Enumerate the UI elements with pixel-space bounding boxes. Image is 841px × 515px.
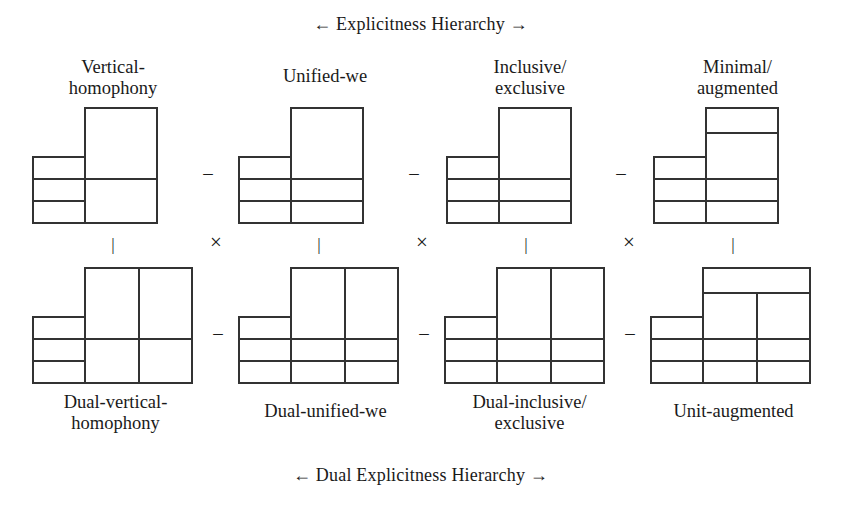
shape-vertical-homophony-svg [33,108,158,224]
caption-minimal-augmented: Minimal/ augmented [650,57,825,99]
operator-minus-top-2: – [402,163,426,182]
caption-unit-augmented: Unit-augmented [641,401,826,422]
explicitness-hierarchy-header: ← Explicitness Hierarchy → [0,14,841,35]
shape-unified-we [239,108,364,224]
shape-dual-vertical-homophony-svg [33,268,193,384]
operator-minus-top-3: – [609,163,633,182]
column-tick-4: | [721,236,745,253]
caption-vertical-homophony: Vertical- homophony [28,57,198,99]
shape-unit-augmented-svg [651,268,811,384]
column-tick-3: | [514,236,538,253]
caption-inclusive-exclusive: Inclusive/ exclusive [445,57,615,99]
operator-minus-bottom-2: – [412,323,436,342]
column-tick-1: | [101,236,125,253]
caption-unified-we: Unified-we [240,66,410,87]
operator-minus-top-1: – [196,163,220,182]
shape-dual-unified-we [239,268,399,384]
shape-minimal-augmented-svg [654,108,779,224]
shape-dual-vertical-homophony [33,268,193,384]
caption-dual-vertical-homophony: Dual-vertical- homophony [23,392,208,434]
caption-dual-inclusive-exclusive: Dual-inclusive/ exclusive [437,392,622,434]
shape-inclusive-exclusive [447,108,572,224]
caption-dual-unified-we: Dual-unified-we [233,401,418,422]
operator-times-3: × [616,232,642,253]
operator-minus-bottom-3: – [618,323,642,342]
shape-vertical-homophony [33,108,158,224]
operator-times-2: × [409,232,435,253]
column-tick-2: | [307,236,331,253]
figure-canvas: ← Explicitness Hierarchy → Vertical- hom… [0,0,841,515]
dual-explicitness-hierarchy-header: ← Dual Explicitness Hierarchy → [0,465,841,486]
shape-minimal-augmented [654,108,779,224]
shape-dual-inclusive-exclusive [445,268,605,384]
shape-unit-augmented [651,268,811,384]
operator-times-1: × [203,232,229,253]
operator-minus-bottom-1: – [206,323,230,342]
shape-unified-we-svg [239,108,364,224]
shape-dual-unified-we-svg [239,268,399,384]
shape-dual-inclusive-exclusive-svg [445,268,605,384]
shape-inclusive-exclusive-svg [447,108,572,224]
